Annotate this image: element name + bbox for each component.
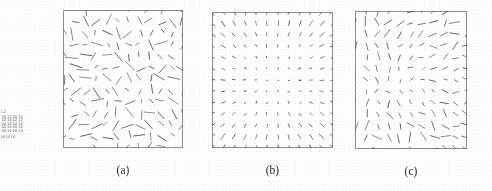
field-segment bbox=[410, 56, 413, 60]
field-segment bbox=[244, 91, 246, 92]
field-segment bbox=[150, 30, 153, 35]
field-segment bbox=[452, 91, 459, 93]
field-segment bbox=[408, 67, 413, 68]
field-segment bbox=[330, 45, 333, 47]
field-segment bbox=[116, 19, 119, 22]
field-segment bbox=[299, 68, 301, 69]
field-segment bbox=[299, 113, 301, 115]
field-segment bbox=[398, 55, 400, 61]
field-segment bbox=[136, 42, 140, 45]
field-segment bbox=[221, 33, 226, 37]
field-segment bbox=[377, 11, 380, 16]
field-segment bbox=[144, 112, 154, 113]
field-segment bbox=[420, 43, 424, 45]
field-segment bbox=[388, 11, 391, 14]
field-segment bbox=[95, 30, 96, 34]
field-segment bbox=[288, 101, 289, 102]
field-segment bbox=[440, 102, 448, 103]
field-segment bbox=[378, 101, 380, 104]
field-segment bbox=[244, 45, 246, 47]
field-segment bbox=[85, 112, 89, 116]
legend-title: 1.2 bbox=[1, 110, 41, 114]
field-segment bbox=[375, 89, 378, 93]
field-segment bbox=[151, 75, 152, 81]
field-segment bbox=[397, 21, 404, 26]
field-segment bbox=[298, 134, 301, 138]
field-segment bbox=[409, 147, 414, 149]
field-segment bbox=[266, 135, 267, 140]
field-segment bbox=[244, 145, 246, 148]
field-segment bbox=[233, 68, 236, 69]
field-segment bbox=[398, 32, 401, 38]
field-segment bbox=[221, 134, 225, 139]
field-segment bbox=[442, 125, 449, 129]
field-segment bbox=[159, 65, 166, 73]
field-segment bbox=[161, 29, 164, 32]
field-segment bbox=[70, 64, 82, 68]
field-segment bbox=[365, 30, 367, 36]
field-segment bbox=[266, 33, 267, 36]
field-segment bbox=[444, 79, 448, 80]
field-segment bbox=[212, 56, 214, 58]
field-segment bbox=[411, 78, 414, 81]
field-segment bbox=[93, 111, 96, 117]
field-segment bbox=[221, 91, 224, 92]
field-segment bbox=[212, 91, 214, 92]
field-segment bbox=[400, 80, 401, 83]
field-segment bbox=[320, 145, 325, 148]
field-segment bbox=[69, 74, 74, 82]
field-segment bbox=[172, 110, 177, 120]
field-segment bbox=[212, 102, 215, 103]
field-segment bbox=[432, 121, 435, 130]
field-segment bbox=[320, 33, 324, 37]
field-segment bbox=[107, 14, 112, 24]
field-segment bbox=[442, 11, 451, 15]
field-segment bbox=[63, 88, 68, 92]
field-segment bbox=[232, 112, 235, 115]
field-segment bbox=[65, 57, 78, 58]
field-segment bbox=[63, 136, 66, 140]
field-segment bbox=[331, 101, 333, 103]
field-segment bbox=[432, 110, 436, 117]
field-segment bbox=[310, 91, 312, 92]
field-segment bbox=[116, 77, 122, 85]
field-segment bbox=[158, 135, 167, 141]
field-segment bbox=[459, 11, 467, 12]
field-segment bbox=[104, 112, 108, 118]
vector-field-svg-b bbox=[212, 12, 333, 148]
field-segment bbox=[137, 68, 145, 72]
field-segment bbox=[114, 133, 119, 140]
field-segment bbox=[453, 112, 458, 116]
field-segment bbox=[157, 145, 164, 147]
field-segment bbox=[181, 110, 183, 117]
field-segment bbox=[244, 135, 247, 140]
field-segment bbox=[108, 43, 110, 47]
field-segment bbox=[331, 91, 333, 92]
field-segment bbox=[363, 78, 367, 81]
field-segment bbox=[375, 18, 379, 25]
field-segment bbox=[453, 136, 458, 139]
field-segment bbox=[232, 145, 235, 148]
field-segment bbox=[355, 122, 358, 132]
field-segment bbox=[372, 135, 382, 139]
field-segment bbox=[123, 31, 131, 37]
field-segment bbox=[232, 134, 235, 139]
field-segment bbox=[443, 145, 448, 149]
field-segment bbox=[113, 121, 119, 131]
legend-cell: 0.8 bbox=[1, 130, 7, 133]
field-segment bbox=[133, 135, 144, 136]
vector-field-panel-a bbox=[63, 10, 183, 148]
field-segment bbox=[256, 57, 257, 58]
field-segment bbox=[289, 21, 290, 26]
field-segment bbox=[63, 29, 66, 34]
field-segment bbox=[244, 124, 246, 127]
legend-table: 0.01.00.01.00.21.00.21.00.41.00.41.00.61… bbox=[1, 116, 23, 133]
field-segment bbox=[453, 42, 458, 50]
field-segment bbox=[256, 21, 257, 25]
field-segment bbox=[423, 102, 425, 106]
field-segment bbox=[443, 109, 446, 116]
field-segment bbox=[429, 80, 435, 82]
field-segment bbox=[71, 88, 81, 96]
field-segment bbox=[171, 133, 175, 136]
field-segment bbox=[81, 134, 92, 136]
